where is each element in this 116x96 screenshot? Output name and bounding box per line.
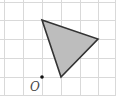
shaded-triangle	[42, 20, 98, 77]
point-o-label: O	[30, 80, 40, 94]
grid-diagram: O	[0, 0, 116, 96]
point-o	[40, 75, 44, 79]
